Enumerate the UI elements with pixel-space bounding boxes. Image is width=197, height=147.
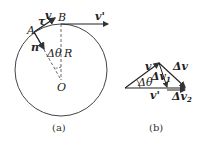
panel-a: A B τ v v' n Δθ R O (a) xyxy=(15,9,108,133)
label-delta-v2: Δv2 xyxy=(171,90,192,104)
label-v-prime: v' xyxy=(95,10,105,23)
label-n: n xyxy=(31,41,39,54)
label-delta-v1: Δv1 xyxy=(150,70,171,84)
label-o: O xyxy=(57,81,66,94)
angle-arc xyxy=(54,67,61,68)
label-b: B xyxy=(57,11,66,24)
label-a: A xyxy=(26,24,35,37)
diagram-canvas: A B τ v v' n Δθ R O (a) v Δv Δv1 Δθ v' Δ… xyxy=(0,0,197,147)
label-delta-theta-b: Δθ xyxy=(137,76,153,89)
label-r: R xyxy=(63,47,72,60)
label-delta-v: Δv xyxy=(172,60,189,73)
label-v: v xyxy=(45,9,52,22)
caption-a: (a) xyxy=(52,122,66,133)
panel-b: v Δv Δv1 Δθ v' Δv2 (b) xyxy=(125,60,192,133)
caption-b: (b) xyxy=(149,122,163,133)
label-v-prime-b: v' xyxy=(150,89,160,102)
label-delta-theta: Δθ xyxy=(46,47,62,60)
